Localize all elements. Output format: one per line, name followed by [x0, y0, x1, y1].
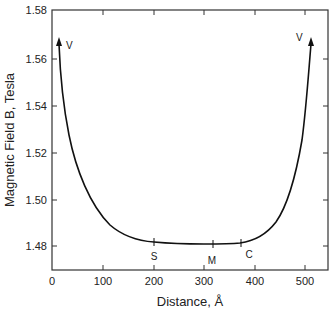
x-tick-label: 300	[195, 275, 213, 287]
plot-frame	[52, 10, 328, 270]
x-tick-label: 100	[94, 275, 112, 287]
annotation-s: S	[151, 251, 158, 262]
x-tick-labels: 0 100 200 300 400 500	[49, 275, 314, 287]
x-axis-ticks	[103, 10, 305, 270]
x-tick-label: 0	[49, 275, 55, 287]
annotation-v-right: V	[296, 32, 303, 43]
x-tick-label: 500	[296, 275, 314, 287]
y-axis-title: Magnetic Field B, Tesla	[2, 72, 17, 207]
annotation-c: C	[245, 249, 252, 260]
y-tick-label: 1.54	[26, 100, 47, 112]
arrow-right-icon	[308, 37, 314, 46]
x-tick-label: 200	[145, 275, 163, 287]
annotation-v-left: V	[66, 40, 73, 51]
y-tick-labels: 1.48 1.50 1.52 1.54 1.56 1.58	[26, 4, 47, 252]
y-tick-label: 1.58	[26, 4, 47, 16]
y-tick-label: 1.50	[26, 194, 47, 206]
x-axis-title: Distance, Å	[157, 294, 224, 309]
chart-container: 0 100 200 300 400 500 1.48 1.50 1.52 1.5…	[0, 0, 332, 316]
magnetic-field-chart: 0 100 200 300 400 500 1.48 1.50 1.52 1.5…	[0, 0, 332, 316]
arrow-left-icon	[56, 37, 62, 46]
y-tick-label: 1.56	[26, 53, 47, 65]
y-tick-label: 1.52	[26, 147, 47, 159]
x-tick-label: 400	[246, 275, 264, 287]
y-tick-label: 1.48	[26, 240, 47, 252]
annotation-m: M	[208, 255, 216, 266]
field-curve	[59, 44, 311, 244]
y-axis-ticks	[52, 59, 328, 246]
